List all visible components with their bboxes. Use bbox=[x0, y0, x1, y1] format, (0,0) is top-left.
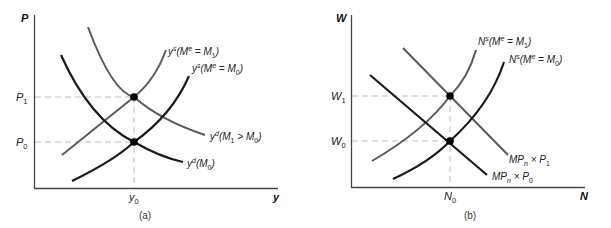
curve-ys-m1 bbox=[62, 50, 166, 155]
tick-label-w0: W0 bbox=[331, 135, 346, 150]
caption-b: (b) bbox=[464, 210, 476, 221]
equilibrium-point-w0 bbox=[446, 137, 454, 145]
label-yd-m1: yd(M1 > M0) bbox=[209, 130, 261, 144]
panel-a-goods-market: P y P1 P0 y0 ys(Me = M1) ys(Me = M0) yd(… bbox=[16, 12, 280, 221]
tick-label-n0: N0 bbox=[444, 190, 456, 205]
label-yd-m0: yd(M0) bbox=[186, 157, 215, 171]
curve-yd-m0 bbox=[61, 55, 183, 162]
tick-label-w1: W1 bbox=[331, 90, 346, 105]
label-ns-m1: Ns(Me = M1) bbox=[478, 35, 531, 49]
label-ys-m1: ys(Me = M1) bbox=[167, 45, 219, 59]
curve-ys-m0 bbox=[72, 76, 189, 181]
label-mpn-p0: MPn × P0 bbox=[492, 171, 533, 184]
label-ns-m0: Ns(Me = M0) bbox=[509, 53, 562, 67]
axis-label-p: P bbox=[21, 12, 29, 24]
curve-ns-m0 bbox=[393, 62, 504, 179]
label-ys-m0: ys(Me = M0) bbox=[191, 62, 243, 76]
equilibrium-point-p1 bbox=[130, 93, 138, 101]
axis-label-w: W bbox=[336, 12, 348, 24]
axis-label-n: N bbox=[580, 190, 589, 202]
figure: P y P1 P0 y0 ys(Me = M1) ys(Me = M0) yd(… bbox=[0, 0, 611, 228]
label-mpn-p1: MPn × P1 bbox=[509, 154, 550, 167]
panel-b-labor-market: W N W1 W0 N0 Ns(Me = M1) Ns(Me = M0) MPn… bbox=[331, 12, 589, 221]
equilibrium-point-p0 bbox=[130, 138, 138, 146]
equilibrium-point-w1 bbox=[446, 92, 454, 100]
tick-label-y0: y0 bbox=[128, 191, 139, 206]
caption-a: (a) bbox=[139, 210, 151, 221]
axis-label-y: y bbox=[272, 191, 280, 203]
curve-mpn-p1 bbox=[403, 48, 508, 155]
tick-label-p1: P1 bbox=[16, 91, 28, 106]
diagram-canvas: P y P1 P0 y0 ys(Me = M1) ys(Me = M0) yd(… bbox=[0, 0, 611, 228]
tick-label-p0: P0 bbox=[16, 136, 28, 151]
